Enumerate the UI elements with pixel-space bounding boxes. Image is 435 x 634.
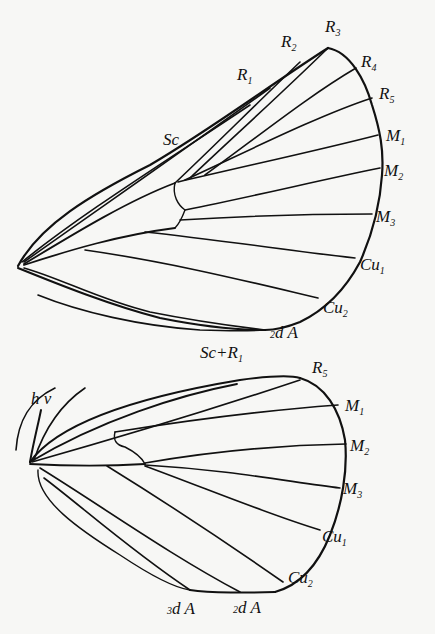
label-3da-hind: 3d A [166,599,195,618]
vein-cu2-hind [107,466,283,582]
label-cu1-hind: Cu1 [322,527,347,548]
hindwing-anal-margin [38,470,190,590]
label-r5-hind: R5 [311,358,327,379]
label-m1-hind: M1 [344,396,364,417]
vein-cu1 [145,232,355,258]
vein-r3 [190,48,328,178]
vein-m2-hind [145,444,346,463]
label-cu1: Cu1 [360,255,385,276]
label-cu2: Cu2 [323,298,348,319]
label-r4: R4 [360,52,376,73]
label-r3: R3 [324,17,340,38]
vein-r1 [24,88,270,262]
hindwing-inner-margin [190,590,275,593]
label-sc: Sc [163,130,180,149]
label-2da-hind: 2d A [233,598,261,617]
label-m3-hind: M3 [342,479,362,500]
label-sc-r1: Sc+R1 [200,343,243,364]
label-r2: R2 [280,32,296,53]
vein-r5 [185,98,372,180]
vein-m3 [180,214,372,220]
label-r5: R5 [378,84,394,105]
hindwing [16,376,346,592]
vein-cu-stem-hind [30,464,145,466]
label-2da: 2d A [270,323,298,342]
label-m3: M3 [375,207,395,228]
vein-sc-r1 [30,384,237,462]
label-hv: h v [31,389,52,408]
label-m2-hind: M2 [349,436,369,457]
vein-cu1-hind [145,466,320,530]
hindwing-labels: Sc+R1 h v R5 M1 M2 M3 Cu1 Cu2 2d A 3d A [31,343,369,618]
vein-r5-hind [32,380,300,462]
forewing-labels: Sc R1 R2 R3 R4 R5 M1 M2 M3 Cu1 Cu2 2d A [163,17,405,342]
label-m2: M2 [383,161,403,182]
forewing [18,48,383,331]
label-m1: M1 [385,126,405,147]
label-r1: R1 [236,65,252,86]
vein-cu2 [85,250,318,298]
discal-cell-crossvein [174,183,185,228]
wing-venation-diagram: Sc R1 R2 R3 R4 R5 M1 M2 M3 Cu1 Cu2 2d A [0,0,435,634]
vein-3a-hind [44,478,190,590]
